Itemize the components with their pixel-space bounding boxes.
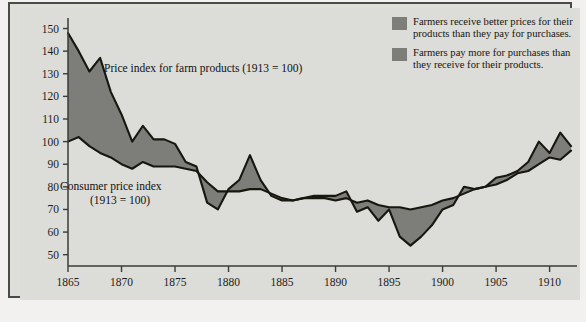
consumer-index-annotation-line2: (1913 = 100)	[90, 194, 150, 207]
figure-root: 5060708090100110120130140150 18651870187…	[0, 0, 586, 322]
consumer-index-annotation-line1: Consumer price index	[60, 180, 162, 193]
y-axis-ticks: 5060708090100110120130140150	[42, 23, 68, 261]
x-tick-label: 1910	[538, 276, 561, 288]
x-tick-label: 1895	[378, 276, 401, 288]
x-tick-label: 1885	[271, 276, 294, 288]
x-axis-ticks: 1865187018751880188518901895190019051910	[57, 266, 562, 288]
y-tick-label: 110	[42, 113, 59, 125]
y-tick-label: 120	[42, 90, 60, 102]
legend-label-farmers-pay-more: Farmers pay more for purchases than they…	[413, 47, 586, 72]
y-tick-label: 70	[48, 203, 60, 215]
x-tick-label: 1875	[164, 276, 187, 288]
legend-swatch-farmers-better	[392, 17, 407, 30]
y-tick-label: 100	[42, 136, 60, 148]
x-tick-label: 1900	[431, 276, 454, 288]
farm-index-annotation: Price index for farm products (1913 = 10…	[104, 62, 303, 75]
x-tick-label: 1865	[57, 276, 80, 288]
y-tick-label: 60	[48, 226, 60, 238]
x-tick-label: 1905	[485, 276, 508, 288]
plot-field: 5060708090100110120130140150 18651870187…	[20, 8, 580, 300]
x-tick-label: 1890	[324, 276, 347, 288]
y-tick-label: 90	[48, 158, 60, 170]
y-tick-label: 80	[48, 181, 60, 193]
legend-item-farmers-pay-more: Farmers pay more for purchases than they…	[392, 47, 586, 72]
chart-legend: Farmers receive better prices for their …	[392, 16, 586, 78]
legend-swatch-farmers-pay-more	[392, 48, 407, 61]
y-tick-label: 130	[42, 68, 60, 80]
legend-item-farmers-better: Farmers receive better prices for their …	[392, 16, 586, 41]
x-tick-label: 1880	[217, 276, 240, 288]
legend-label-farmers-better: Farmers receive better prices for their …	[413, 16, 586, 41]
y-tick-label: 140	[42, 45, 60, 57]
x-tick-label: 1870	[110, 276, 133, 288]
y-tick-label: 50	[48, 249, 60, 261]
y-tick-label: 150	[42, 23, 60, 35]
figure-frame: 5060708090100110120130140150 18651870187…	[8, 2, 572, 298]
